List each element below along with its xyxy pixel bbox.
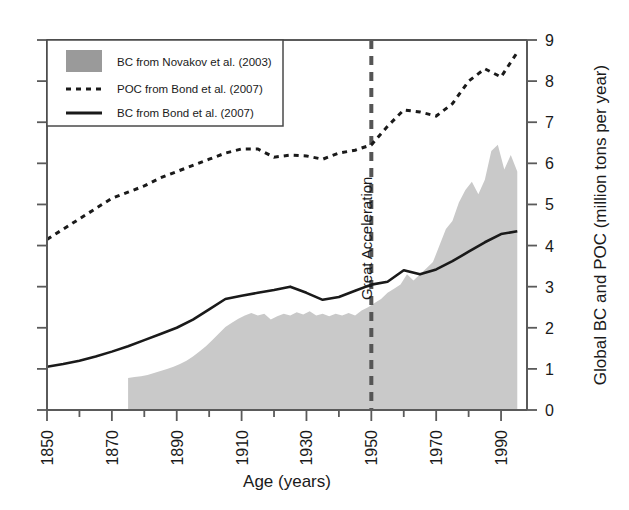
y-axis-tick-labels: 0123456789 bbox=[545, 32, 554, 419]
legend-label-poc: POC from Bond et al. (2007) bbox=[117, 83, 263, 95]
x-tick-label: 1910 bbox=[234, 430, 251, 466]
y-axis-ticks-left bbox=[37, 40, 47, 410]
y-tick-label: 8 bbox=[545, 73, 554, 90]
y-axis-title: Global BC and POC (million tons per year… bbox=[591, 65, 610, 385]
legend-label-bc: BC from Bond et al. (2007) bbox=[117, 107, 254, 119]
x-tick-label: 1930 bbox=[298, 430, 315, 466]
y-tick-label: 2 bbox=[545, 320, 554, 337]
y-tick-label: 7 bbox=[545, 114, 554, 131]
x-axis-title: Age (years) bbox=[243, 472, 331, 491]
y-tick-label: 6 bbox=[545, 155, 554, 172]
y-tick-label: 3 bbox=[545, 279, 554, 296]
great-acceleration-label: Great Acceleration bbox=[358, 177, 375, 300]
x-tick-label: 1890 bbox=[169, 430, 186, 466]
x-axis-ticks bbox=[47, 410, 501, 421]
legend-label-novakov: BC from Novakov et al. (2003) bbox=[117, 56, 272, 68]
x-tick-label: 1850 bbox=[39, 430, 56, 466]
x-tick-label: 1950 bbox=[363, 430, 380, 466]
y-tick-label: 9 bbox=[545, 32, 554, 49]
chart-canvas: 18501870189019101930195019701990 0123456… bbox=[0, 0, 629, 510]
x-axis-tick-labels: 18501870189019101930195019701990 bbox=[39, 430, 510, 466]
y-tick-label: 0 bbox=[545, 402, 554, 419]
x-tick-label: 1870 bbox=[104, 430, 121, 466]
legend-swatch-novakov-patch bbox=[66, 50, 102, 72]
x-tick-label: 1970 bbox=[428, 430, 445, 466]
x-tick-label: 1990 bbox=[493, 430, 510, 466]
y-tick-label: 5 bbox=[545, 196, 554, 213]
y-tick-label: 4 bbox=[545, 238, 554, 255]
y-axis-ticks-right bbox=[527, 40, 537, 410]
figure-container: 18501870189019101930195019701990 0123456… bbox=[0, 0, 629, 510]
y-tick-label: 1 bbox=[545, 361, 554, 378]
chart-legend: BC from Novakov et al. (2003) POC from B… bbox=[47, 40, 283, 126]
